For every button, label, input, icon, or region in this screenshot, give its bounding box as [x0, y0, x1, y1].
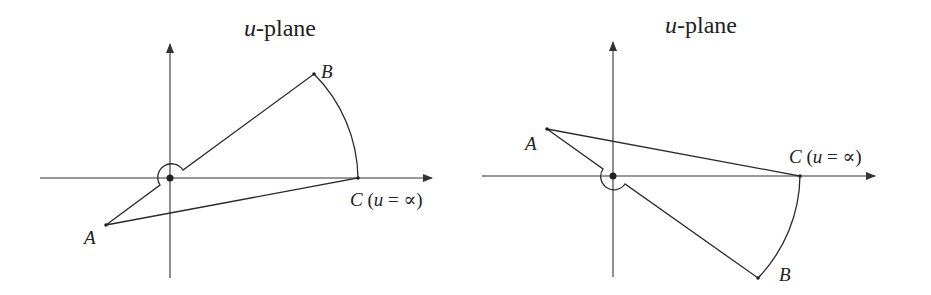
- left-panel: u-plane A B C (u = ∝): [40, 15, 432, 278]
- left-point-a: [104, 223, 108, 227]
- left-label-a: A: [82, 227, 96, 248]
- left-point-c: [356, 176, 360, 180]
- right-label-b: B: [779, 264, 791, 285]
- right-point-a: [545, 127, 549, 131]
- right-label-c: C (u = ∝): [789, 146, 862, 168]
- left-origin-point: [167, 175, 174, 182]
- left-label-b: B: [321, 61, 333, 82]
- right-origin-point: [610, 173, 617, 180]
- right-point-b: [756, 276, 760, 280]
- right-label-a: A: [523, 133, 537, 154]
- right-point-c: [798, 174, 802, 178]
- left-title: u-plane: [244, 15, 316, 41]
- u-plane-diagrams: u-plane A B C (u = ∝) u-plane A B C (u =…: [0, 0, 931, 295]
- right-title: u-plane: [665, 12, 737, 38]
- right-panel: u-plane A B C (u = ∝): [482, 12, 875, 285]
- left-point-b: [312, 72, 316, 76]
- left-label-c: C (u = ∝): [350, 189, 423, 211]
- right-contour: [547, 129, 800, 278]
- left-contour: [106, 74, 358, 225]
